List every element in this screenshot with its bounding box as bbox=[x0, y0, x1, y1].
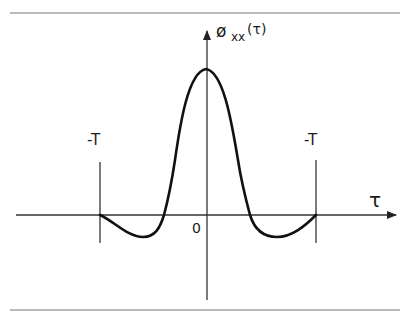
autocorrelation-curve bbox=[100, 69, 316, 237]
x-axis-label: τ bbox=[369, 188, 381, 212]
y-axis-label-symbol: ø bbox=[216, 21, 226, 41]
y-axis-label-argument: (τ) bbox=[247, 21, 266, 37]
figure-canvas: ø xx (τ) τ 0 -T -T bbox=[0, 0, 410, 320]
right-t-label: -T bbox=[304, 131, 318, 149]
y-axis-label-subscript: xx bbox=[231, 30, 245, 44]
origin-label: 0 bbox=[192, 220, 201, 236]
left-t-label: -T bbox=[87, 131, 101, 149]
